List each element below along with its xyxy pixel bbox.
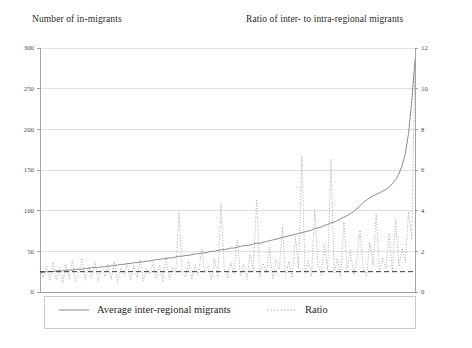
- right-axis-title: Ratio of inter- to intra-regional migran…: [246, 14, 403, 24]
- legend-label-ratio: Ratio: [305, 304, 328, 315]
- svg-text:4: 4: [421, 207, 425, 214]
- legend-entry-average: Average inter-regional migrants: [59, 304, 231, 315]
- series-average: [40, 60, 415, 272]
- svg-text:2: 2: [421, 248, 425, 255]
- svg-text:50: 50: [27, 248, 34, 255]
- legend-entry-ratio: Ratio: [267, 304, 328, 315]
- svg-text:100: 100: [24, 207, 35, 214]
- chart-plot-area: 050100150200250300 024681012: [0, 0, 472, 300]
- y-axis-left-tick-labels: 050100150200250300: [24, 44, 40, 295]
- svg-text:0: 0: [421, 288, 425, 295]
- legend-solid-line-icon: [59, 305, 89, 315]
- chart-legend: Average inter-regional migrants Ratio: [44, 296, 416, 329]
- svg-text:8: 8: [421, 126, 425, 133]
- chart-page: Number of in-migrants Ratio of inter- to…: [0, 0, 472, 348]
- left-axis-title: Number of in-migrants: [32, 14, 122, 24]
- legend-label-average: Average inter-regional migrants: [97, 304, 231, 315]
- svg-text:250: 250: [24, 85, 35, 92]
- svg-text:6: 6: [421, 166, 425, 173]
- svg-text:300: 300: [24, 44, 35, 51]
- grid-lines: [40, 48, 415, 292]
- svg-text:10: 10: [421, 85, 428, 92]
- svg-text:12: 12: [421, 44, 428, 51]
- y-axis-right-tick-labels: 024681012: [415, 44, 428, 295]
- svg-text:150: 150: [24, 166, 35, 173]
- legend-dotted-line-icon: [267, 305, 297, 315]
- svg-text:200: 200: [24, 126, 35, 133]
- svg-text:0: 0: [31, 288, 35, 295]
